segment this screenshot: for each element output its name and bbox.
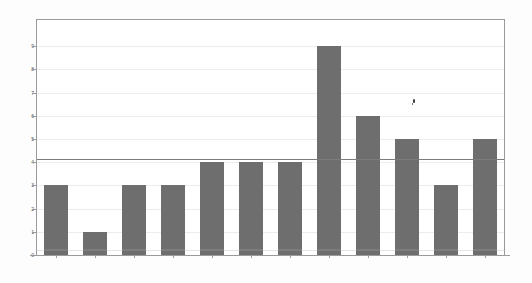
bar-base-band [473,249,497,251]
y-tick-mark-6 [32,116,36,117]
y-tick-label-7: 7 [8,90,34,96]
x-tick-mark [329,255,330,258]
y-tick-mark-7 [32,93,36,94]
reference-line [37,159,504,160]
y-tick-label-9: 9 [8,43,34,49]
x-tick-mark [407,255,408,258]
y-tick-label-4: 4 [8,159,34,165]
y-tick-mark-4 [32,162,36,163]
bar [317,46,341,255]
gridline-y-6 [37,116,504,117]
gridline-y-8 [37,69,504,70]
bar-base-band [434,249,458,251]
y-tick-mark-2 [32,209,36,210]
bar [122,185,146,255]
x-tick-mark [485,255,486,258]
bar [278,162,302,255]
bar [83,232,107,255]
y-axis: 0123456789 [0,0,34,283]
y-tick-mark-3 [32,185,36,186]
x-tick-mark [251,255,252,258]
y-tick-label-2: 2 [8,206,34,212]
x-tick-mark [56,255,57,258]
x-tick-mark [290,255,291,258]
gridline-y-5 [37,139,504,140]
x-tick-mark [446,255,447,258]
bar-base-band [239,249,263,251]
bar [395,139,419,255]
y-tick-label-3: 3 [8,182,34,188]
gridline-y-7 [37,93,504,94]
x-tick-mark [95,255,96,258]
x-tick-mark [368,255,369,258]
y-tick-label-8: 8 [8,66,34,72]
y-tick-mark-1 [32,232,36,233]
bar [239,162,263,255]
y-tick-label-1: 1 [8,229,34,235]
scan-speck-icon [413,99,415,103]
bar-base-band [83,249,107,251]
bar-base-band [44,249,68,251]
gridline-y-4 [37,162,504,163]
bar-base-band [278,249,302,251]
y-tick-mark-5 [32,139,36,140]
bar [434,185,458,255]
bar-base-band [356,249,380,251]
gridline-y-9 [37,46,504,47]
y-tick-label-5: 5 [8,136,34,142]
x-tick-mark [173,255,174,258]
bar-base-band [395,249,419,251]
y-tick-mark-9 [32,46,36,47]
bar [44,185,68,255]
bar [356,116,380,255]
x-axis-line [30,255,510,256]
bar-base-band [122,249,146,251]
x-tick-mark [212,255,213,258]
y-tick-label-6: 6 [8,113,34,119]
plot-area [37,20,504,255]
bar-base-band [317,249,341,251]
x-tick-mark [134,255,135,258]
bar [473,139,497,255]
bar-base-band [161,249,185,251]
bar [161,185,185,255]
bar-base-band [200,249,224,251]
bar [200,162,224,255]
bar-chart: 0123456789 [0,0,532,283]
scan-speck-tail-icon [412,103,413,105]
y-tick-mark-8 [32,69,36,70]
